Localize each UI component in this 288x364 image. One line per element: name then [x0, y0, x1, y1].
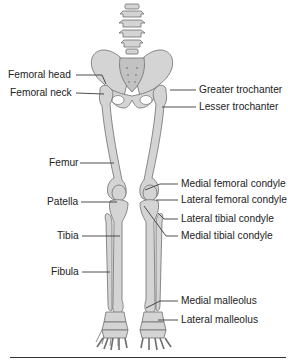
label-fibula: Fibula: [51, 266, 79, 278]
label-medial-femoral-condyle: Medial femoral condyle: [181, 178, 286, 190]
right-foot: [140, 312, 171, 350]
label-femoral-neck: Femoral neck: [10, 87, 72, 99]
label-lateral-malleolus: Lateral malleolus: [181, 314, 258, 326]
left-lower-leg: [105, 200, 128, 314]
figure-bottom-rule: [10, 357, 286, 358]
right-patella: [143, 185, 157, 201]
label-femur: Femur: [49, 157, 78, 169]
label-lateral-tibial-condyle: Lateral tibial condyle: [181, 213, 274, 225]
label-lateral-femoral-condyle: Lateral femoral condyle: [181, 194, 287, 206]
label-medial-tibial-condyle: Medial tibial condyle: [181, 230, 273, 242]
left-patella: [112, 185, 126, 201]
label-lesser-trochanter: Lesser trochanter: [199, 101, 278, 113]
label-greater-trochanter: Greater trochanter: [199, 84, 282, 96]
left-foot: [96, 312, 128, 350]
label-medial-malleolus: Medial malleolus: [181, 295, 257, 307]
label-patella: Patella: [47, 196, 78, 208]
label-tibia: Tibia: [57, 230, 79, 242]
label-femoral-head: Femoral head: [8, 69, 71, 81]
lumbar-spine: [119, 4, 145, 54]
